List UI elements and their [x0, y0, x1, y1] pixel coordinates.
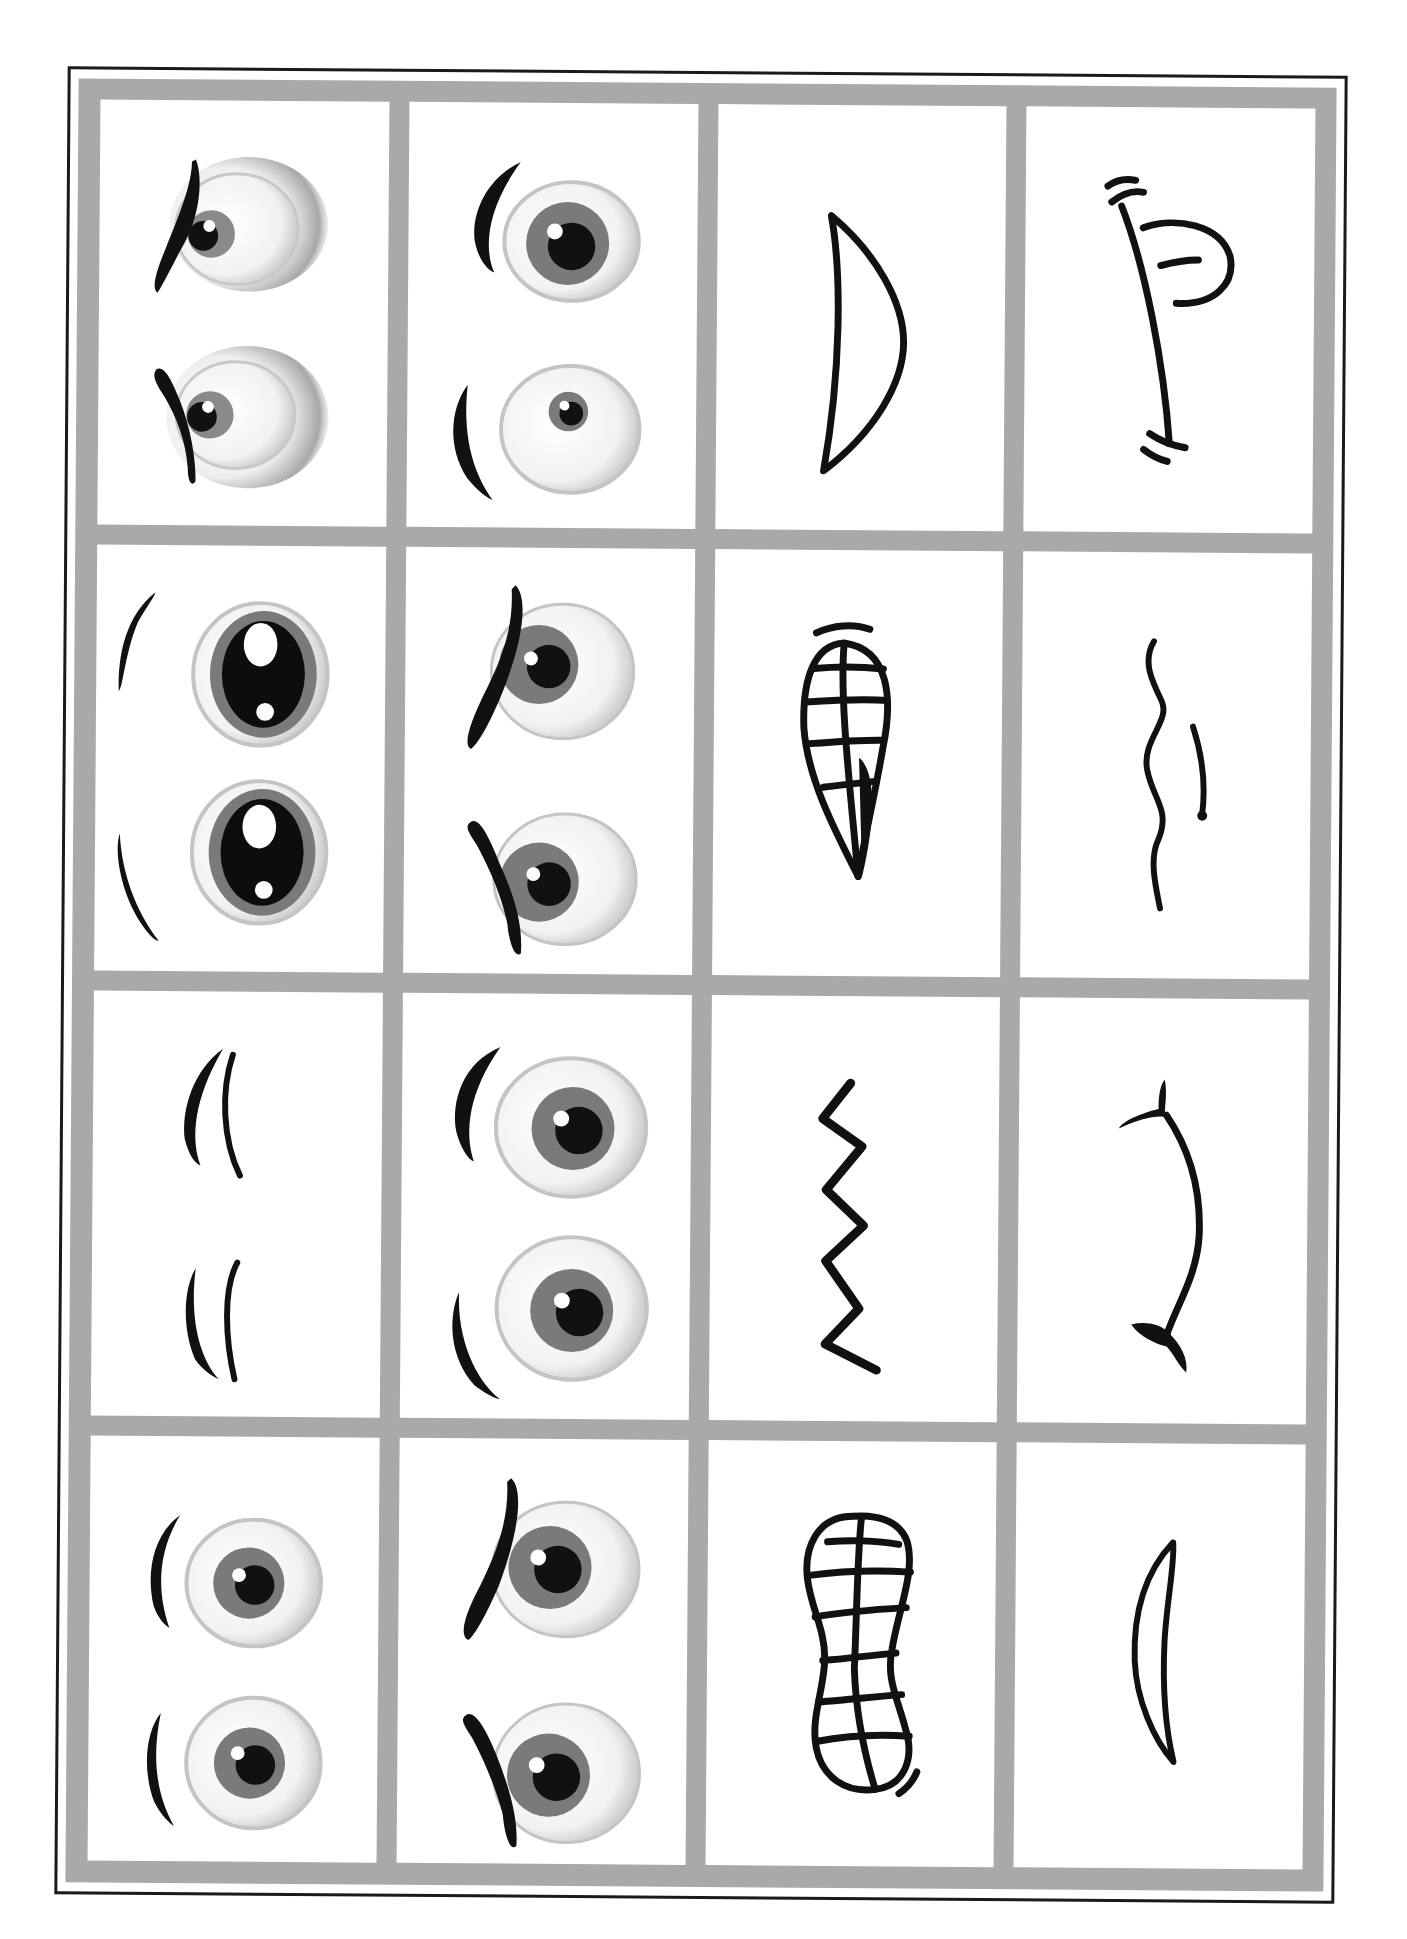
closed-sleepy-eyes-icon — [91, 990, 383, 1417]
angry-side-glance-eyes-icon — [97, 100, 389, 527]
frowning-eyes-icon — [403, 547, 695, 974]
cell-r1c3[interactable] — [715, 104, 1007, 531]
big-sparkle-eyes-icon — [94, 545, 386, 972]
cell-r3c4[interactable] — [1017, 997, 1309, 1424]
big-teeth-mouth-icon — [705, 1440, 997, 1867]
cell-r1c4[interactable] — [1024, 106, 1316, 533]
cell-r4c3[interactable] — [705, 1440, 997, 1867]
cell-r2c3[interactable] — [712, 549, 1004, 976]
angry-eyes-icon — [396, 1438, 688, 1865]
cell-r4c2[interactable] — [396, 1438, 688, 1865]
cell-r2c4[interactable] — [1020, 552, 1312, 979]
surprised-eyes-icon — [406, 102, 698, 529]
wavy-nervous-mouth-icon — [1020, 552, 1312, 979]
cell-r1c1[interactable] — [97, 100, 389, 527]
cell-r3c1[interactable] — [91, 990, 383, 1417]
cell-r2c2[interactable] — [403, 547, 695, 974]
zigzag-mouth-icon — [708, 995, 1000, 1422]
wide-open-eyes-icon — [400, 992, 692, 1419]
teeth-grin-mouth-icon — [712, 549, 1004, 976]
open-smile-mouth-icon — [715, 104, 1007, 531]
cell-r4c4[interactable] — [1014, 1442, 1306, 1869]
cell-r2c1[interactable] — [94, 545, 386, 972]
cell-r4c1[interactable] — [88, 1435, 380, 1862]
cutout-grid — [65, 78, 1336, 1891]
face-parts-sheet — [54, 66, 1347, 1903]
cell-r1c2[interactable] — [406, 102, 698, 529]
cell-r3c3[interactable] — [708, 995, 1000, 1422]
smirk-mouth-icon — [1017, 997, 1309, 1424]
calm-eyes-icon — [88, 1435, 380, 1862]
tongue-out-mouth-icon — [1024, 106, 1316, 533]
thin-smile-mouth-icon — [1014, 1442, 1306, 1869]
cell-r3c2[interactable] — [400, 992, 692, 1419]
